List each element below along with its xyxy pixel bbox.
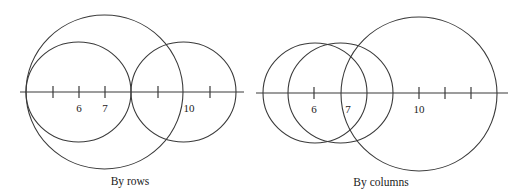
venn-number-line-diagram: 6710By rows 6710By columns — [0, 0, 526, 193]
tick-label: 10 — [184, 102, 196, 114]
tick-label: 6 — [76, 102, 82, 114]
tick-label: 6 — [311, 103, 317, 115]
tick-label: 10 — [414, 103, 426, 115]
tick-label: 7 — [345, 103, 351, 115]
panel-by-rows: 6710By rows — [20, 15, 244, 188]
tick-label: 7 — [102, 102, 108, 114]
panel-caption: By columns — [353, 176, 409, 189]
panel-by-columns: 6710By columns — [256, 17, 508, 189]
panel-caption: By rows — [111, 175, 150, 188]
